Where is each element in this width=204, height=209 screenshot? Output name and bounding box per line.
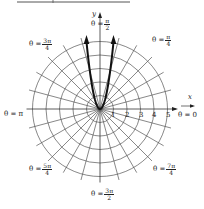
- angle-label-7pi-over-4: θ = 7π4: [153, 163, 176, 176]
- x-axis-label: x: [188, 93, 192, 101]
- angle-label-3pi-over-2: θ = 3π2: [91, 188, 114, 201]
- y-axis-label: y: [92, 10, 96, 18]
- angle-label-3pi-over-4: θ = 3π4: [29, 38, 52, 51]
- angle-label-pi-over-4: θ = π4: [152, 34, 171, 47]
- top-border-line: [17, 0, 130, 3]
- angle-label-pi: θ = π: [4, 111, 23, 118]
- polar-graph: [0, 0, 204, 209]
- radial-tick-4: 4: [152, 111, 156, 119]
- angle-label-0: θ = 0: [178, 112, 197, 119]
- radial-tick-3: 3: [139, 111, 143, 119]
- radial-tick-5: 5: [166, 111, 170, 119]
- angle-label-pi-over-2: θ = π2: [91, 18, 110, 31]
- radial-tick-2: 2: [125, 111, 129, 119]
- angle-label-5pi-over-4: θ = 5π4: [29, 163, 52, 176]
- radial-tick-1: 1: [111, 111, 115, 119]
